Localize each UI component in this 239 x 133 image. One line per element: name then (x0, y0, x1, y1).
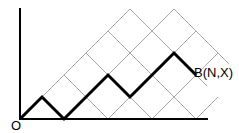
walk-path (20, 53, 196, 119)
diagonal-grid (20, 9, 229, 119)
origin-label: O (11, 119, 21, 132)
grid-line-down (196, 31, 227, 62)
grid-line-up (196, 97, 218, 119)
endpoint-label: B(N,X) (194, 66, 233, 79)
